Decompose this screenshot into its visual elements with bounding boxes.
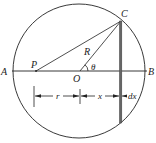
- arrow-x-right: [113, 94, 119, 98]
- label-R: R: [83, 46, 90, 57]
- arrow-r-left: [35, 94, 41, 98]
- label-theta: θ: [91, 62, 96, 72]
- label-C: C: [121, 8, 128, 19]
- line-PC: [36, 21, 121, 71]
- label-x: x: [97, 91, 102, 101]
- arrow-dx: [122, 94, 127, 97]
- arrow-r-right: [73, 94, 79, 98]
- label-r: r: [56, 91, 60, 101]
- label-B: B: [148, 66, 154, 77]
- strip-dx: [119, 21, 122, 123]
- angle-arc: [85, 65, 88, 71]
- label-P: P: [30, 59, 37, 70]
- label-dx: dx: [128, 91, 137, 101]
- label-A: A: [0, 66, 8, 77]
- circle-geometry-diagram: A B C O P R θ r x dx: [0, 0, 156, 143]
- point-P-dot: [35, 70, 37, 72]
- label-O: O: [73, 73, 80, 84]
- arrow-x-left: [81, 94, 87, 98]
